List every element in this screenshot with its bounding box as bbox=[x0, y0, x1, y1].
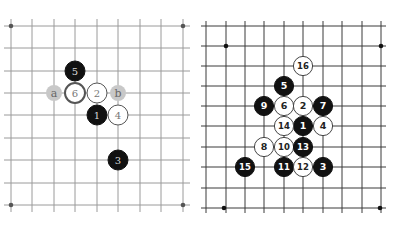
stone-black-11: 11 bbox=[274, 157, 293, 176]
stone-black-7: 7 bbox=[313, 96, 332, 115]
marker-label: a bbox=[51, 87, 58, 100]
stone-white-6: 6 bbox=[65, 83, 85, 103]
move-number-label: 2 bbox=[300, 100, 307, 111]
stone-black-9: 9 bbox=[254, 96, 273, 115]
move-number-label: 6 bbox=[72, 88, 78, 99]
star-point-icon bbox=[378, 206, 383, 211]
star-point-icon bbox=[181, 203, 186, 208]
stone-black-1: 1 bbox=[293, 116, 312, 135]
stone-white-14: 14 bbox=[274, 116, 293, 135]
move-number-label: 4 bbox=[115, 110, 121, 121]
stone-white-4: 4 bbox=[313, 116, 332, 135]
star-point-icon bbox=[9, 24, 14, 29]
move-number-label: 3 bbox=[320, 161, 327, 172]
move-number-label: 7 bbox=[320, 100, 327, 111]
move-number-label: 6 bbox=[281, 100, 288, 111]
stone-black-5: 5 bbox=[274, 76, 293, 95]
right-board-grid bbox=[201, 21, 386, 213]
move-number-label: 5 bbox=[72, 66, 78, 77]
stone-black-13: 13 bbox=[293, 137, 312, 156]
move-number-label: 5 bbox=[281, 80, 288, 91]
move-number-label: 3 bbox=[115, 155, 121, 166]
stone-black-5: 5 bbox=[65, 61, 85, 81]
move-number-label: 10 bbox=[278, 142, 290, 152]
move-number-label: 12 bbox=[297, 162, 309, 172]
stone-black-15: 15 bbox=[235, 157, 254, 176]
stone-white-6: 6 bbox=[274, 96, 293, 115]
move-number-label: 9 bbox=[261, 100, 268, 111]
move-number-label: 15 bbox=[239, 162, 251, 172]
move-number-label: 2 bbox=[94, 88, 100, 99]
stone-white-10: 10 bbox=[274, 137, 293, 156]
stone-white-16: 16 bbox=[293, 56, 312, 75]
stone-black-3: 3 bbox=[313, 157, 332, 176]
go-diagrams: ab 123456 12345678910111213141516 bbox=[0, 0, 407, 226]
stone-white-2: 2 bbox=[293, 96, 312, 115]
marker-label: b bbox=[114, 87, 121, 100]
star-point-icon bbox=[9, 203, 14, 208]
stone-black-1: 1 bbox=[87, 105, 107, 125]
move-number-label: 1 bbox=[300, 120, 307, 131]
marker-b: b bbox=[110, 85, 126, 101]
star-point-icon bbox=[224, 44, 229, 49]
stone-black-3: 3 bbox=[108, 150, 128, 170]
star-point-icon bbox=[379, 44, 384, 49]
right-board: 12345678910111213141516 bbox=[201, 21, 386, 213]
stone-white-8: 8 bbox=[254, 137, 273, 156]
left-board: ab 123456 bbox=[4, 19, 190, 212]
move-number-label: 13 bbox=[297, 142, 309, 152]
star-point-icon bbox=[222, 206, 227, 211]
move-number-label: 1 bbox=[94, 110, 100, 121]
move-number-label: 8 bbox=[261, 141, 268, 152]
move-number-label: 11 bbox=[278, 162, 290, 172]
move-number-label: 14 bbox=[278, 121, 290, 131]
marker-a: a bbox=[46, 85, 62, 101]
stone-white-4: 4 bbox=[108, 105, 128, 125]
stone-white-2: 2 bbox=[87, 83, 107, 103]
stone-white-12: 12 bbox=[293, 157, 312, 176]
move-number-label: 4 bbox=[320, 120, 327, 131]
star-point-icon bbox=[181, 24, 186, 29]
move-number-label: 16 bbox=[297, 61, 309, 71]
